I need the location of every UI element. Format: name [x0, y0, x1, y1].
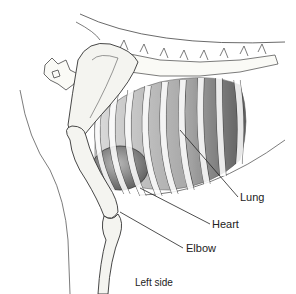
- thorax-diagram: [0, 0, 296, 294]
- label-elbow: Elbow: [186, 243, 216, 254]
- neck-outline: [76, 22, 100, 40]
- figure-caption: Left side: [135, 278, 173, 288]
- chest-outline: [20, 90, 70, 294]
- back-outline: [80, 14, 285, 43]
- cervical-vertebrae: [44, 58, 78, 90]
- label-heart: Heart: [212, 219, 239, 230]
- forearm: [98, 214, 122, 294]
- label-lung: Lung: [240, 192, 264, 203]
